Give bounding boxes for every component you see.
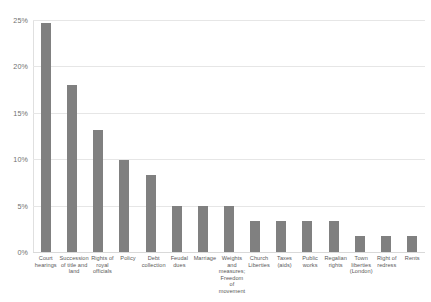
- bar-slot: [190, 20, 216, 252]
- bar[interactable]: [41, 23, 51, 252]
- bar-slot: [373, 20, 399, 252]
- x-axis-category-label: Taxes (aids): [272, 255, 298, 268]
- gridline-0: [33, 252, 425, 253]
- bar-slot: [268, 20, 294, 252]
- bar-chart: 0%5%10%15%20%25% Court hearingsSuccessio…: [0, 0, 431, 302]
- bar[interactable]: [276, 221, 286, 252]
- bar[interactable]: [146, 175, 156, 252]
- bar-slot: [347, 20, 373, 252]
- x-axis-category-label: Town liberties (London): [348, 255, 374, 275]
- y-tick-label: 10%: [13, 155, 33, 164]
- bar[interactable]: [93, 130, 103, 252]
- bar[interactable]: [119, 160, 129, 252]
- bar[interactable]: [67, 85, 77, 252]
- bar[interactable]: [407, 236, 417, 252]
- x-axis-labels: Court hearingsSuccession of title and la…: [33, 255, 425, 295]
- bar-slot: [216, 20, 242, 252]
- bar[interactable]: [302, 221, 312, 252]
- x-axis-category-label: Public works: [297, 255, 323, 268]
- bar[interactable]: [198, 206, 208, 252]
- x-axis-category-label: Court hearings: [33, 255, 59, 268]
- x-axis-category-label: Rights of royal officials: [90, 255, 116, 275]
- bar-slot: [242, 20, 268, 252]
- x-axis-category-label: Succession of title and land: [59, 255, 90, 275]
- x-axis-category-label: Church Liberties: [246, 255, 272, 268]
- x-axis-category-label: Marriage: [192, 255, 218, 262]
- bar-slot: [138, 20, 164, 252]
- bar-slot: [111, 20, 137, 252]
- bars-group: [33, 20, 425, 252]
- bar-slot: [59, 20, 85, 252]
- bar[interactable]: [224, 206, 234, 252]
- bar[interactable]: [329, 221, 339, 252]
- x-axis-category-label: Feudal dues: [167, 255, 193, 268]
- bar-slot: [294, 20, 320, 252]
- bar-slot: [321, 20, 347, 252]
- bar-slot: [85, 20, 111, 252]
- bar[interactable]: [172, 206, 182, 252]
- bar[interactable]: [381, 236, 391, 252]
- x-axis-category-label: Weights and measures; Freedom of movemen…: [218, 255, 247, 295]
- bar[interactable]: [355, 236, 365, 252]
- y-tick-label: 20%: [13, 62, 33, 71]
- y-tick-label: 0%: [17, 248, 33, 257]
- bar[interactable]: [250, 221, 260, 252]
- y-tick-label: 5%: [17, 201, 33, 210]
- x-axis-category-label: Right of redress: [374, 255, 400, 268]
- bar-slot: [33, 20, 59, 252]
- bar-slot: [164, 20, 190, 252]
- x-axis-category-label: Regalian rights: [323, 255, 349, 268]
- y-tick-label: 15%: [13, 108, 33, 117]
- x-axis-category-label: Debt collection: [141, 255, 167, 268]
- x-axis-category-label: Rents: [400, 255, 426, 262]
- y-tick-label: 25%: [13, 16, 33, 25]
- x-axis-category-label: Policy: [115, 255, 141, 262]
- bar-slot: [399, 20, 425, 252]
